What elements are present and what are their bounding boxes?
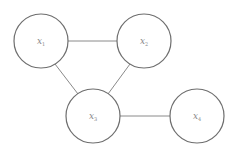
edge-x2-x3 (108, 64, 130, 94)
edge-x1-x3 (55, 64, 78, 94)
node-x4: x4 (170, 89, 224, 143)
graph-diagram: x1 x2 x3 x4 (0, 0, 238, 151)
node-x1: x1 (14, 14, 68, 68)
node-x3: x3 (66, 89, 120, 143)
node-x2: x2 (117, 14, 171, 68)
